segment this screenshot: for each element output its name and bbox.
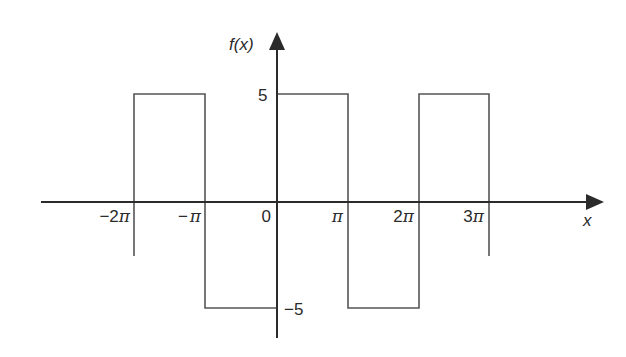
y-tick-label-5: 5 (258, 86, 267, 105)
x-tick-label-minus-2pi: −2π (99, 206, 130, 226)
x-axis-arrow-icon (586, 194, 604, 210)
x-tick-label-3pi: 3π (463, 206, 484, 226)
x-axis-label: x (582, 211, 592, 230)
x-tick-label-2pi: 2π (393, 206, 414, 226)
square-wave-diagram: f(x) x 5 −5 −2π −π 0 π 2π 3π (0, 0, 626, 357)
x-tick-label-0: 0 (262, 207, 271, 226)
y-axis-label: f(x) (229, 35, 254, 54)
y-axis (269, 32, 285, 338)
y-tick-label-minus-5: −5 (284, 300, 303, 319)
x-tick-label-minus-pi: −π (178, 206, 202, 226)
y-axis-arrow-icon (269, 32, 285, 50)
x-tick-label-pi: π (331, 206, 344, 226)
